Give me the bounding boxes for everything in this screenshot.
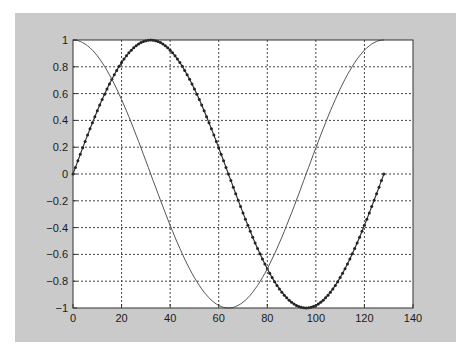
data-point-marker bbox=[344, 267, 347, 270]
data-point-marker bbox=[378, 186, 381, 189]
data-point-marker bbox=[261, 258, 264, 261]
data-point-marker bbox=[263, 262, 266, 265]
data-point-marker bbox=[254, 241, 257, 244]
data-point-marker bbox=[256, 247, 259, 250]
x-tick-label: 140 bbox=[404, 312, 422, 324]
x-tick-label: 40 bbox=[164, 312, 176, 324]
data-point-marker bbox=[98, 104, 101, 107]
data-point-marker bbox=[375, 192, 378, 195]
data-point-marker bbox=[178, 61, 181, 64]
y-tick-label: −0.2 bbox=[46, 195, 68, 207]
data-point-marker bbox=[227, 173, 230, 176]
data-point-marker bbox=[84, 140, 87, 143]
data-point-marker bbox=[91, 121, 94, 124]
data-point-marker bbox=[183, 69, 186, 72]
x-tick-label: 0 bbox=[70, 312, 76, 324]
data-point-marker bbox=[81, 146, 84, 149]
data-point-marker bbox=[74, 166, 77, 169]
data-point-marker bbox=[130, 49, 133, 52]
data-point-marker bbox=[89, 127, 92, 130]
y-tick-label: 0.8 bbox=[53, 61, 68, 73]
data-point-marker bbox=[203, 109, 206, 112]
y-tick-label: −0.4 bbox=[46, 222, 68, 234]
data-point-marker bbox=[120, 61, 123, 64]
data-point-marker bbox=[242, 211, 245, 214]
data-point-marker bbox=[348, 258, 351, 261]
data-point-marker bbox=[123, 58, 126, 61]
data-point-marker bbox=[106, 87, 109, 90]
data-point-marker bbox=[380, 179, 383, 182]
data-point-marker bbox=[93, 115, 96, 118]
data-point-marker bbox=[336, 280, 339, 283]
data-point-marker bbox=[353, 247, 356, 250]
data-point-marker bbox=[363, 224, 366, 227]
data-point-marker bbox=[285, 296, 288, 299]
data-point-marker bbox=[273, 280, 276, 283]
data-point-marker bbox=[249, 230, 252, 233]
data-point-marker bbox=[222, 159, 225, 162]
data-point-marker bbox=[339, 276, 342, 279]
data-point-marker bbox=[370, 205, 373, 208]
y-tick-label: 0.4 bbox=[53, 114, 68, 126]
data-point-marker bbox=[288, 299, 291, 302]
data-point-marker bbox=[135, 44, 138, 47]
data-point-marker bbox=[161, 43, 164, 46]
data-point-marker bbox=[232, 186, 235, 189]
data-point-marker bbox=[181, 65, 184, 68]
data-point-marker bbox=[125, 54, 128, 57]
data-point-marker bbox=[268, 272, 271, 275]
data-point-marker bbox=[96, 109, 99, 112]
data-point-marker bbox=[327, 294, 330, 297]
data-point-marker bbox=[76, 159, 79, 162]
y-tick-label: −0.6 bbox=[46, 248, 68, 260]
data-point-marker bbox=[113, 73, 116, 76]
data-point-marker bbox=[166, 46, 169, 49]
data-point-marker bbox=[322, 299, 325, 302]
data-point-marker bbox=[368, 211, 371, 214]
x-tick-label: 100 bbox=[307, 312, 325, 324]
data-point-marker bbox=[319, 301, 322, 304]
data-point-marker bbox=[331, 287, 334, 290]
data-point-marker bbox=[132, 46, 135, 49]
data-point-marker bbox=[329, 291, 332, 294]
data-point-marker bbox=[373, 199, 376, 202]
data-point-marker bbox=[191, 83, 194, 86]
data-point-marker bbox=[171, 51, 174, 54]
data-point-marker bbox=[169, 49, 172, 52]
data-point-marker bbox=[334, 284, 337, 287]
data-point-marker bbox=[79, 153, 82, 156]
data-point-marker bbox=[341, 272, 344, 275]
data-point-marker bbox=[174, 54, 177, 57]
data-point-marker bbox=[193, 87, 196, 90]
data-point-marker bbox=[215, 140, 218, 143]
data-point-marker bbox=[127, 51, 130, 54]
data-point-marker bbox=[210, 127, 213, 130]
data-point-marker bbox=[186, 73, 189, 76]
data-point-marker bbox=[225, 166, 228, 169]
data-point-marker bbox=[365, 218, 368, 221]
data-point-marker bbox=[346, 262, 349, 265]
data-point-marker bbox=[358, 236, 361, 239]
data-point-marker bbox=[176, 58, 179, 61]
y-tick-label: 0.6 bbox=[53, 88, 68, 100]
data-point-marker bbox=[290, 301, 293, 304]
data-point-marker bbox=[276, 284, 279, 287]
data-point-marker bbox=[280, 291, 283, 294]
y-tick-label: 0 bbox=[62, 168, 68, 180]
line-chart: 10.80.60.40.20−0.2−0.4−0.6−0.8−1 0204060… bbox=[15, 13, 456, 342]
data-point-marker bbox=[259, 252, 262, 255]
data-point-marker bbox=[251, 236, 254, 239]
data-point-marker bbox=[356, 241, 359, 244]
data-point-marker bbox=[229, 179, 232, 182]
y-tick-label: 0.2 bbox=[53, 141, 68, 153]
x-tick-label: 80 bbox=[261, 312, 273, 324]
x-tick-label: 120 bbox=[355, 312, 373, 324]
data-point-marker bbox=[115, 69, 118, 72]
data-point-marker bbox=[164, 44, 167, 47]
y-tick-label: 1 bbox=[62, 34, 68, 46]
data-point-marker bbox=[220, 153, 223, 156]
y-tick-label: −1 bbox=[55, 302, 68, 314]
data-point-marker bbox=[283, 294, 286, 297]
data-point-marker bbox=[244, 218, 247, 221]
data-point-marker bbox=[317, 302, 320, 305]
